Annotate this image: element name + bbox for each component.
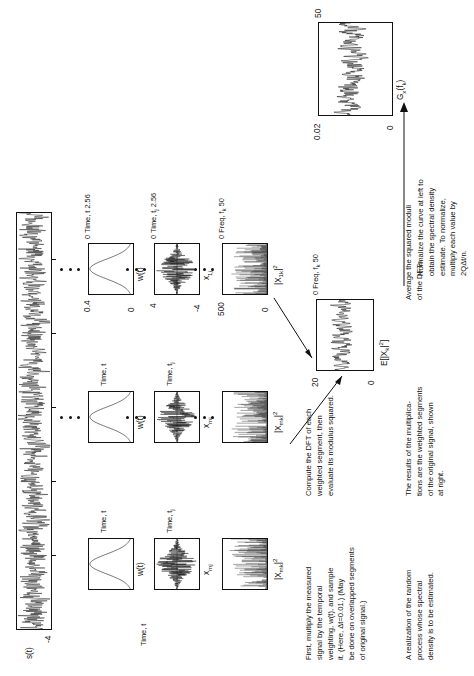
caption-multiply: First, multiply the measured signal by t… [304, 500, 369, 660]
figure-root: -4 s(t) 0.4 0 w(t) 0 Time, t 2.56 4 -4 x… [0, 0, 474, 676]
caption-results: The results of the multiplica- tions are… [404, 336, 447, 496]
arrow-head-3 [400, 102, 408, 112]
caption-normalize: Normalize the curve at left to obtain th… [416, 108, 470, 276]
caption-realization: A realization of the random process whos… [404, 510, 436, 660]
caption-dft: Compute the DFT of each weighted segment… [304, 336, 336, 496]
figure-stage: -4 s(t) 0.4 0 w(t) 0 Time, t 2.56 4 -4 x… [0, 0, 474, 676]
